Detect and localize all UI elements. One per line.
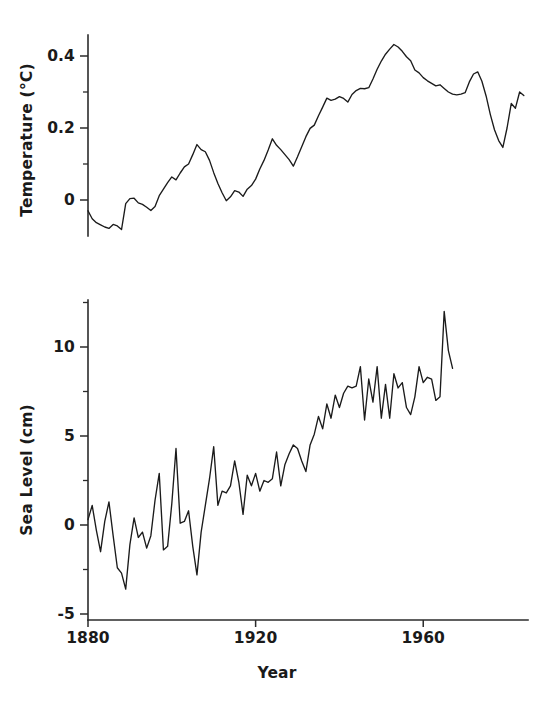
charts-svg: 00.20.4 Temperature (°C) -50510 18801920… [0, 0, 552, 710]
temperature-panel: 00.20.4 Temperature (°C) [18, 35, 524, 236]
sea-level-x-ticklabel: 1880 [66, 629, 110, 647]
temperature-y-ticks [80, 56, 88, 200]
temperature-y-ticklabel: 0.4 [47, 47, 75, 65]
sea-level-x-ticklabel: 1960 [401, 629, 445, 647]
temperature-y-ticklabel: 0.2 [47, 119, 75, 137]
sea-level-y-ticks [80, 303, 88, 615]
sea-level-x-ticklabel: 1920 [234, 629, 278, 647]
temperature-series-line [88, 44, 524, 229]
temperature-y-ticklabel: 0 [64, 191, 75, 209]
sea-level-y-ticklabel: 10 [53, 338, 75, 356]
sea-level-y-ticklabel: 5 [64, 427, 75, 445]
sea-level-panel: -50510 188019201960 Sea Level (cm) Year [18, 300, 528, 682]
temperature-y-axis-label: Temperature (°C) [18, 63, 36, 216]
sea-level-series-line [88, 311, 453, 589]
sea-level-y-ticklabels: -50510 [53, 338, 75, 623]
sea-level-y-ticklabel: 0 [64, 516, 75, 534]
figure-canvas: 00.20.4 Temperature (°C) -50510 18801920… [0, 0, 552, 710]
sea-level-x-ticklabels: 188019201960 [66, 629, 445, 647]
sea-level-x-axis-label: Year [256, 664, 296, 682]
sea-level-x-ticks [88, 620, 423, 627]
sea-level-y-ticklabel: -5 [58, 605, 75, 623]
sea-level-y-axis-label: Sea Level (cm) [18, 404, 36, 536]
temperature-y-ticklabels: 00.20.4 [47, 47, 75, 209]
